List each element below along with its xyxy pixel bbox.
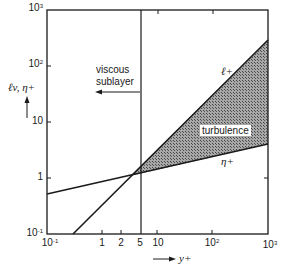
l-plus-label: ℓ+ [221, 66, 233, 76]
x-axis-title: y+ [179, 253, 191, 263]
x-tick-1e3: 103 [258, 240, 282, 250]
x-tick-10: 10 [146, 238, 170, 248]
y-tick-1: 1 [13, 172, 43, 182]
y-tick-1e2: 102 [13, 59, 43, 69]
eta-plus-label: η+ [221, 156, 234, 166]
y-axis-title: ℓv, η+ [8, 82, 35, 92]
y-arrowhead-icon [25, 96, 30, 103]
sublayer-label-text: sublayer [96, 76, 134, 87]
y-tick-1e3: 103 [13, 3, 43, 13]
y-tick-1e-1: 10-1 [13, 228, 43, 238]
x-tick-1e2: 102 [200, 238, 224, 248]
viscous-arrowhead-icon [95, 90, 102, 95]
viscous-label: viscous [96, 64, 129, 75]
x-arrowhead-icon [169, 257, 176, 262]
x-tick-1e-1: 10-1 [38, 238, 62, 248]
turbulence-label: turbulence [200, 125, 251, 136]
y-tick-10: 10 [13, 116, 43, 126]
